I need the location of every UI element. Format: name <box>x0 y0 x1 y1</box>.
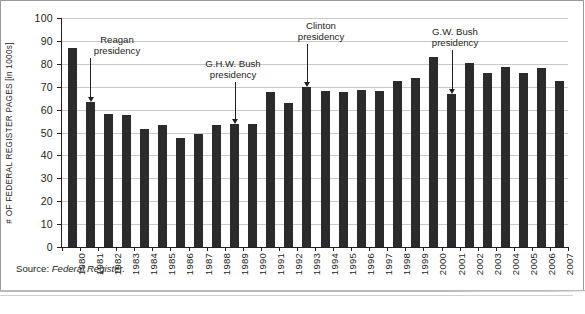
bar <box>393 81 402 247</box>
x-axis-tick-label: 2006 <box>546 253 557 275</box>
bar <box>68 48 77 247</box>
annotation-arrowhead-gw-bush <box>449 89 455 94</box>
x-axis-tick <box>387 247 388 251</box>
x-axis-tick-label: 2001 <box>456 253 467 275</box>
x-axis-tick <box>225 247 226 251</box>
x-axis-tick-label: 2005 <box>528 253 539 275</box>
bar <box>321 91 330 247</box>
x-axis-tick-label: 1988 <box>221 253 232 275</box>
bar <box>302 87 311 247</box>
y-axis-tick <box>57 110 62 111</box>
x-axis-tick <box>351 247 352 251</box>
figure-page: # OF FEDERAL REGISTER PAGES [in 1000s] 0… <box>0 0 585 314</box>
x-axis-tick-label: 1994 <box>329 253 340 275</box>
x-axis-tick-label: 1986 <box>184 253 195 275</box>
y-axis-title-text: # OF FEDERAL REGISTER PAGES [in 1000s] <box>4 42 14 224</box>
x-axis-tick <box>496 247 497 251</box>
x-axis-tick <box>170 247 171 251</box>
annotation-ghw-bush: G.H.W. Bushpresidency <box>190 58 276 81</box>
x-axis-tick <box>62 247 63 251</box>
bar <box>501 67 510 247</box>
figure-bottom-rule-secondary <box>0 295 573 296</box>
x-axis-tick <box>478 247 479 251</box>
x-axis-tick <box>261 247 262 251</box>
y-axis-title: # OF FEDERAL REGISTER PAGES [in 1000s] <box>2 18 15 247</box>
y-axis-tick-label: 30 <box>41 172 53 184</box>
x-axis-tick-label: 1989 <box>239 253 250 275</box>
annotation-arrowhead-reagan <box>88 97 94 102</box>
y-axis-tick-label: 40 <box>41 149 53 161</box>
x-axis-tick <box>550 247 551 251</box>
bar <box>158 125 167 248</box>
bar <box>483 73 492 247</box>
annotation-leader-clinton <box>307 44 308 82</box>
x-axis-tick-label: 1990 <box>257 253 268 275</box>
x-axis-tick-label: 1995 <box>347 253 358 275</box>
bar <box>375 91 384 247</box>
bar <box>104 114 113 247</box>
x-axis-tick <box>207 247 208 251</box>
bar <box>429 57 438 247</box>
annotation-label-line2: presidency <box>412 37 498 48</box>
gridline <box>62 18 568 19</box>
annotation-leader-gw-bush <box>452 50 453 89</box>
x-axis-tick <box>297 247 298 251</box>
bar <box>519 73 528 247</box>
x-axis-tick-label: 1996 <box>365 253 376 275</box>
x-axis-tick-label: 1985 <box>166 253 177 275</box>
bar <box>122 115 131 247</box>
x-axis-tick <box>333 247 334 251</box>
bar <box>447 94 456 247</box>
y-axis-tick-label: 80 <box>41 58 53 70</box>
y-axis-tick-label: 100 <box>35 12 53 24</box>
annotation-label-line1: G.H.W. Bush <box>190 58 276 69</box>
y-axis-tick-label: 50 <box>41 127 53 139</box>
figure-bottom-rule <box>0 290 585 292</box>
bar <box>465 63 474 247</box>
bar <box>411 78 420 247</box>
x-axis-tick <box>514 247 515 251</box>
y-axis-tick <box>57 133 62 134</box>
bar <box>284 103 293 247</box>
annotation-arrowhead-ghw-bush <box>232 119 238 124</box>
bar <box>140 129 149 247</box>
x-axis-tick-label: 1999 <box>419 253 430 275</box>
y-axis-tick-label: 0 <box>47 241 53 253</box>
x-axis-tick <box>532 247 533 251</box>
annotation-reagan: Reaganpresidency <box>74 34 160 57</box>
y-axis-tick-label: 70 <box>41 81 53 93</box>
y-axis-tick-label: 90 <box>41 35 53 47</box>
annotation-label-line1: G.W. Bush <box>412 26 498 37</box>
x-axis-tick-label: 2002 <box>474 253 485 275</box>
x-axis-tick-label: 1991 <box>275 253 286 275</box>
x-axis-tick-label: 1993 <box>311 253 322 275</box>
annotation-label-line1: Reagan <box>74 34 160 45</box>
source-note: Source: Federal Register. <box>16 263 125 274</box>
y-axis-tick <box>57 155 62 156</box>
bar <box>176 138 185 247</box>
x-axis-tick-label: 2007 <box>564 253 575 275</box>
bar <box>266 92 275 247</box>
x-axis-tick <box>152 247 153 251</box>
bar <box>230 124 239 247</box>
y-axis-tick <box>57 178 62 179</box>
x-axis-tick <box>98 247 99 251</box>
x-axis-tick <box>369 247 370 251</box>
x-axis-tick <box>568 247 569 251</box>
y-axis-tick <box>57 224 62 225</box>
x-axis-tick-label: 1983 <box>130 253 141 275</box>
gridline <box>62 64 568 65</box>
source-name: Federal Register. <box>52 263 125 274</box>
annotation-leader-reagan <box>90 58 91 97</box>
x-axis-tick-label: 1998 <box>401 253 412 275</box>
x-axis-tick <box>442 247 443 251</box>
annotation-arrowhead-clinton <box>304 82 310 87</box>
x-axis-tick <box>243 247 244 251</box>
bar <box>537 68 546 247</box>
annotation-leader-ghw-bush <box>235 82 236 119</box>
x-axis-tick-label: 1984 <box>148 253 159 275</box>
y-axis-tick <box>57 41 62 42</box>
x-axis-tick <box>279 247 280 251</box>
y-axis-tick <box>57 64 62 65</box>
bar <box>357 90 366 247</box>
